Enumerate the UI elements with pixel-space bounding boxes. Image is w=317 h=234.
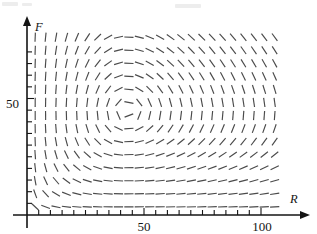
- field-mark: [180, 98, 182, 107]
- field-mark: [201, 111, 202, 120]
- direction-field-figure: F R 50 50 100: [0, 0, 317, 234]
- field-mark: [273, 124, 276, 133]
- field-mark: [232, 98, 233, 107]
- field-mark: [239, 166, 247, 170]
- field-mark: [220, 138, 226, 145]
- field-mark: [229, 152, 237, 157]
- field-mark: [156, 167, 165, 169]
- field-mark: [125, 114, 134, 117]
- field-mark: [272, 46, 277, 54]
- field-mark: [210, 124, 214, 132]
- field-mark: [45, 46, 46, 55]
- field-mark: [167, 47, 174, 53]
- field-mark: [157, 125, 163, 132]
- field-mark: [135, 49, 144, 51]
- field-mark: [208, 152, 216, 157]
- field-mark: [168, 125, 173, 133]
- field-mark: [210, 60, 215, 67]
- field-mark: [210, 72, 215, 80]
- field-mark: [104, 35, 112, 39]
- field-mark: [272, 34, 277, 41]
- field-mark: [166, 193, 175, 194]
- field-mark: [55, 150, 58, 159]
- field-mark: [83, 166, 91, 170]
- field-mark: [179, 125, 184, 133]
- field-mark: [85, 59, 89, 67]
- field-mark: [220, 47, 226, 54]
- field-mark: [274, 98, 275, 107]
- field-mark: [252, 124, 255, 133]
- field-mark: [45, 59, 46, 68]
- field-mark: [199, 138, 205, 145]
- field-mark: [65, 46, 67, 55]
- field-mark: [219, 152, 227, 157]
- field-mark: [66, 72, 68, 81]
- field-mark: [273, 85, 276, 94]
- field-mark: [176, 180, 185, 182]
- field-mark: [178, 60, 184, 67]
- field-mark: [107, 98, 110, 107]
- field-mark: [262, 34, 268, 41]
- field-mark: [191, 111, 192, 120]
- field-mark: [45, 150, 47, 159]
- field-mark: [84, 152, 91, 158]
- field-mark: [188, 34, 195, 40]
- field-mark: [177, 166, 186, 169]
- field-mark: [233, 111, 234, 120]
- field-mark: [65, 137, 67, 146]
- field-mark: [114, 75, 123, 78]
- field-mark: [229, 166, 237, 170]
- field-mark: [201, 98, 203, 107]
- field-mark: [166, 180, 175, 181]
- field-mark: [76, 98, 77, 107]
- field-mark: [64, 164, 70, 171]
- field-mark: [146, 61, 154, 65]
- field-mark: [242, 85, 245, 94]
- field-mark: [197, 180, 206, 182]
- field-mark: [241, 138, 247, 145]
- field-mark: [135, 154, 144, 155]
- field-mark: [179, 85, 183, 93]
- field-mark: [229, 180, 238, 182]
- field-mark: [272, 138, 277, 145]
- field-mark: [262, 59, 267, 67]
- field-mark: [56, 72, 57, 81]
- x-axis-ticks: [39, 208, 261, 215]
- field-mark: [124, 76, 133, 77]
- field-mark: [200, 85, 204, 93]
- field-mark: [97, 111, 98, 120]
- field-mark: [95, 47, 101, 54]
- field-mark: [94, 34, 101, 40]
- field-mark: [86, 124, 89, 133]
- field-mark: [135, 140, 144, 142]
- field-mark: [274, 111, 275, 120]
- field-mark: [56, 124, 57, 133]
- field-mark: [65, 33, 67, 42]
- field-mark: [147, 86, 153, 93]
- field-mark: [156, 35, 164, 40]
- field-mark: [45, 137, 46, 146]
- field-mark: [187, 193, 196, 194]
- field-mark: [220, 60, 225, 68]
- field-mark: [97, 98, 99, 107]
- field-mark: [105, 125, 111, 132]
- field-mark: [156, 153, 165, 156]
- field-mark: [250, 152, 257, 158]
- field-mark: [197, 166, 206, 169]
- field-mark: [156, 139, 164, 144]
- field-mark: [252, 72, 256, 80]
- field-mark: [199, 47, 205, 54]
- field-mark: [55, 137, 57, 146]
- field-mark: [262, 72, 266, 80]
- field-mark: [94, 152, 102, 157]
- field-mark: [199, 34, 206, 40]
- field-mark: [148, 98, 152, 106]
- field-mark: [168, 85, 173, 93]
- field-mark: [35, 150, 36, 159]
- field-mark: [188, 60, 194, 67]
- field-mark: [228, 193, 237, 194]
- field-mark: [167, 60, 174, 66]
- field-mark: [188, 138, 195, 144]
- field-mark: [62, 192, 71, 195]
- field-mark: [104, 167, 113, 169]
